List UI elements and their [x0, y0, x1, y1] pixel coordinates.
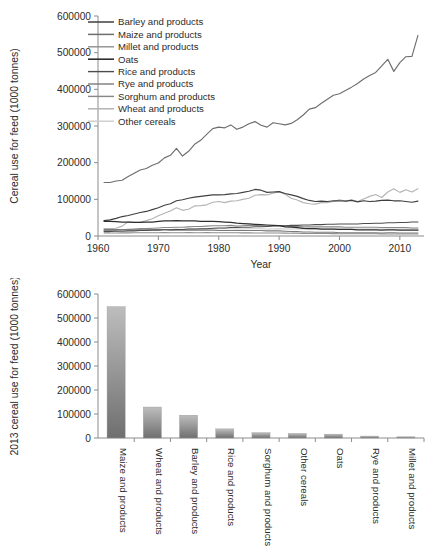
y-tick-label: 100000 — [57, 409, 91, 420]
y-tick-label: 600000 — [57, 289, 91, 300]
legend-label: Rye and products — [118, 78, 193, 89]
y-tick-label: 600000 — [57, 11, 91, 22]
category-label: Other cereals — [299, 448, 310, 506]
bar — [288, 433, 306, 438]
bar — [252, 433, 270, 438]
category-label: Sorghum and products — [263, 448, 274, 546]
category-label: Rye and products — [371, 448, 382, 524]
bar — [361, 436, 379, 438]
category-label: Rice and products — [226, 448, 237, 526]
x-tick-label: 2000 — [328, 243, 351, 254]
figure-container: 0100000200000300000400000500000600000196… — [0, 0, 429, 559]
category-label: Millet and products — [407, 448, 418, 529]
x-tick-label: 1970 — [147, 243, 170, 254]
legend-label: Maize and products — [118, 29, 202, 40]
bar-chart-panel: 0100000200000300000400000500000600000201… — [0, 278, 429, 559]
line-chart-content: 0100000200000300000400000500000600000196… — [9, 11, 424, 270]
cereal-feed-2013-ranked-chart: 0100000200000300000400000500000600000201… — [0, 278, 429, 559]
y-tick-label: 0 — [85, 433, 91, 444]
y-tick-label: 200000 — [57, 385, 91, 396]
legend-label: Rice and products — [118, 66, 196, 77]
legend-label: Millet and products — [118, 41, 199, 52]
legend-label: Oats — [118, 54, 138, 65]
category-label: Maize and products — [118, 448, 129, 533]
x-tick-label: 1960 — [87, 243, 110, 254]
legend-label: Sorghum and products — [118, 91, 215, 102]
bar — [324, 434, 342, 438]
category-label: Barley and products — [190, 448, 201, 534]
category-label: Oats — [335, 448, 346, 469]
bar — [180, 415, 198, 438]
y-tick-label: 200000 — [57, 157, 91, 168]
category-label: Wheat and products — [154, 448, 165, 535]
y-tick-label: 300000 — [57, 121, 91, 132]
bar-chart-content: 0100000200000300000400000500000600000201… — [9, 278, 424, 546]
legend-label: Wheat and products — [118, 103, 204, 114]
x-tick-label: 1990 — [268, 243, 291, 254]
y-tick-label: 0 — [85, 231, 91, 242]
x-tick-label: 2010 — [389, 243, 412, 254]
x-tick-label: 1980 — [207, 243, 230, 254]
y-tick-label: 500000 — [57, 47, 91, 58]
y-tick-label: 300000 — [57, 361, 91, 372]
y-axis-title: 2013 cereal use for feed (1000 tonnes) — [9, 278, 20, 456]
y-tick-label: 400000 — [57, 84, 91, 95]
y-axis-title: Cereal use for feed (1000 tonnes) — [9, 48, 20, 203]
bar — [143, 407, 161, 438]
y-tick-label: 500000 — [57, 313, 91, 324]
x-axis-title: Year — [251, 259, 273, 270]
y-tick-label: 100000 — [57, 194, 91, 205]
line-chart-panel: 0100000200000300000400000500000600000196… — [0, 0, 429, 280]
bar — [107, 307, 125, 438]
legend-label: Other cereals — [118, 116, 176, 127]
y-tick-label: 400000 — [57, 337, 91, 348]
bar — [397, 437, 415, 438]
cereal-feed-timeseries-chart: 0100000200000300000400000500000600000196… — [0, 0, 429, 280]
legend-label: Barley and products — [118, 16, 204, 27]
bar — [216, 429, 234, 438]
